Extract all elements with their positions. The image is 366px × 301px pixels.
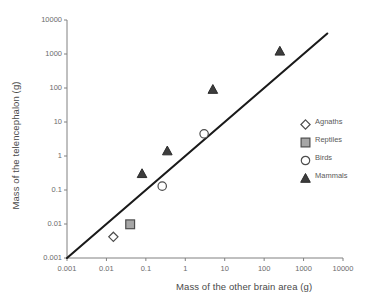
y-tick-label: 1 xyxy=(20,151,62,160)
legend-item-reptiles[interactable]: Reptiles xyxy=(300,131,364,147)
x-axis-title: Mass of the other brain area (g) xyxy=(176,281,366,292)
legend-item-birds[interactable]: Birds xyxy=(300,149,364,165)
legend-item-label: Birds xyxy=(315,153,332,162)
series-reptiles xyxy=(126,220,135,229)
legend-item-label: Mammals xyxy=(315,171,348,180)
series-mammals xyxy=(137,46,284,177)
y-tick-label: 0.001 xyxy=(20,253,62,262)
identity-reference-line xyxy=(67,34,327,258)
legend-item-mammals[interactable]: Mammals xyxy=(300,167,364,183)
y-tick-label: 100 xyxy=(20,83,62,92)
open-diamond-icon xyxy=(300,116,311,127)
legend-item-label: Reptiles xyxy=(315,135,342,144)
series-agnaths xyxy=(109,232,118,241)
open-circle-icon xyxy=(300,152,311,163)
chart-legend: AgnathsReptilesBirdsMammals xyxy=(300,113,364,185)
filled-square-icon xyxy=(300,134,311,145)
scatter-chart: Mass of the telencephalon (g) Mass of th… xyxy=(0,0,366,301)
y-axis-title: Mass of the telencephalon (g) xyxy=(10,46,21,246)
filled-triangle-icon xyxy=(300,170,311,181)
legend-item-label: Agnaths xyxy=(315,117,343,126)
series-birds xyxy=(158,130,208,191)
y-tick-label: 1000 xyxy=(20,49,62,58)
y-tick-label: 10 xyxy=(20,117,62,126)
y-tick-label: 0.1 xyxy=(20,185,62,194)
y-tick-label: 10000 xyxy=(20,15,62,24)
y-tick-label: 0.01 xyxy=(20,219,62,228)
x-tick-label: 10000 xyxy=(320,264,366,273)
legend-item-agnaths[interactable]: Agnaths xyxy=(300,113,364,129)
